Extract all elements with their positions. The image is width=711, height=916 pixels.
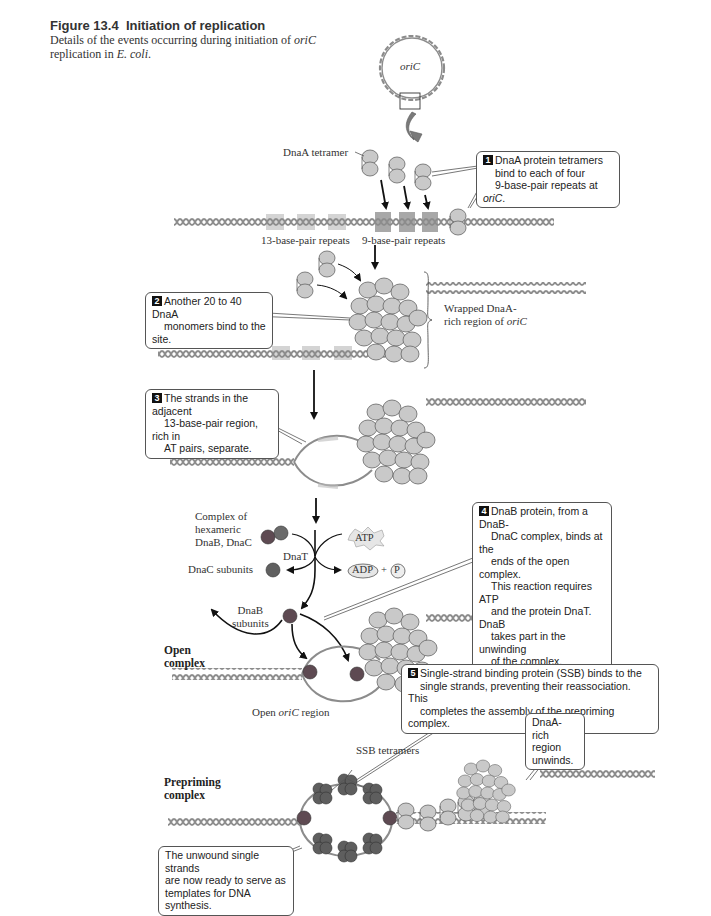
oric-plasmid	[380, 36, 444, 142]
prepriming-line-1: Prepriming	[164, 776, 221, 788]
wrapped-region-label: Wrapped DnaA-rich region of oriC	[444, 302, 527, 328]
step-1-oric: oriC	[483, 192, 502, 204]
open-region-suffix: region	[299, 706, 330, 718]
step-2-line-2: monomers bind to the site.	[152, 320, 266, 345]
hexameric-complex-label: Complex ofhexamericDnaB, DnaC	[195, 510, 252, 549]
step-4-line-6: takes part in the unwinding	[479, 630, 566, 655]
prepriming-complex-label: Preprimingcomplex	[164, 776, 221, 802]
step-4-line-1: DnaB protein, from a DnaB-	[479, 505, 588, 530]
wrapped-line-2: rich region of	[444, 315, 507, 327]
step-5-line-2: single strands, preventing their reassoc…	[408, 680, 631, 705]
ssb-tetramers-label: SSB tetramers	[356, 744, 419, 756]
step-2-number: 2	[152, 296, 162, 306]
step-3-line-2: 13-base-pair region, rich in	[152, 417, 258, 442]
step-1-callout: 1DnaA protein tetramers bind to each of …	[476, 151, 620, 208]
unwound-line-1: The unwound single strands	[165, 849, 259, 874]
step-2-callout: 2Another 20 to 40 DnaA monomers bind to …	[145, 292, 273, 349]
step-1-number: 1	[483, 155, 493, 165]
oric-circle-label: oriC	[400, 60, 420, 72]
step-1-line-2: bind to each of four	[483, 167, 585, 179]
step-4-number: 4	[479, 506, 489, 516]
step-3-number: 3	[152, 393, 162, 403]
step-3-line-3: AT pairs, separate.	[152, 442, 252, 454]
step-3-line-1: The strands in the adjacent	[152, 392, 248, 417]
prepriming-line-2: complex	[164, 789, 205, 801]
plus-sign: +	[381, 564, 387, 575]
open-region-prefix: Open	[252, 706, 279, 718]
dnaa-unwinds-callout: DnaA-rich region unwinds.	[525, 713, 585, 770]
unwound-strands-callout: The unwound single strands are now ready…	[158, 846, 294, 916]
phosphate-label: P	[394, 564, 400, 575]
step-5-line-1: Single-strand binding protein (SSB) bind…	[420, 667, 642, 679]
repeats-13-label: 13-base-pair repeats	[261, 234, 350, 246]
open-line-1: Open	[164, 644, 191, 656]
step-4-line-3: ends of the open complex.	[479, 555, 569, 580]
adp-label: ADP	[352, 564, 373, 575]
step-5-number: 5	[408, 668, 418, 678]
dnac-subunits-label: DnaC subunits	[188, 563, 253, 575]
wrapped-line-1: Wrapped DnaA-	[444, 302, 517, 314]
repeats-9-label: 9-base-pair repeats	[362, 234, 445, 246]
open-line-2: complex	[164, 657, 205, 669]
dnaa-tetramer-label: DnaA tetramer	[283, 146, 348, 158]
step-4-callout: 4DnaB protein, from a DnaB- DnaC complex…	[472, 502, 612, 672]
step-3-callout: 3The strands in the adjacent 13-base-pai…	[145, 389, 279, 459]
complex-line-1: Complex of	[195, 510, 247, 522]
complex-line-3: DnaB, DnaC	[195, 536, 252, 548]
dna-row-1	[174, 209, 554, 235]
unwinds-line-1: DnaA-rich	[532, 716, 562, 741]
wrapped-oric: oriC	[507, 315, 527, 327]
step-1-line-3: 9-base-pair repeats at	[483, 179, 598, 191]
open-region-oric: oriC	[279, 706, 299, 718]
complex-line-2: hexameric	[195, 523, 241, 535]
step-1-end: .	[502, 192, 505, 204]
open-oric-region-label: Open oriC region	[252, 706, 330, 718]
open-complex-label: Opencomplex	[164, 644, 205, 670]
unwound-line-3: templates for DNA synthesis.	[165, 887, 250, 912]
dnat-label: DnaT	[283, 550, 308, 562]
unwound-line-2: are now ready to serve as	[165, 874, 286, 886]
step-4-line-4: This reaction requires ATP	[479, 580, 592, 605]
atp-label: ATP	[355, 532, 374, 543]
step-1-line-1: DnaA protein tetramers	[495, 154, 603, 166]
step-4-line-2: DnaC complex, binds at the	[479, 530, 602, 555]
unwinds-line-3: unwinds.	[532, 754, 573, 766]
dnab-line-1: DnaB	[238, 604, 264, 616]
unwinds-line-2: region	[532, 741, 561, 753]
dnab-subunits-label: DnaBsubunits	[232, 604, 269, 630]
step-2-line-1: Another 20 to 40 DnaA	[152, 295, 242, 320]
step-4-line-5: and the protein DnaT. DnaB	[479, 605, 591, 630]
dnab-line-2: subunits	[232, 617, 269, 629]
